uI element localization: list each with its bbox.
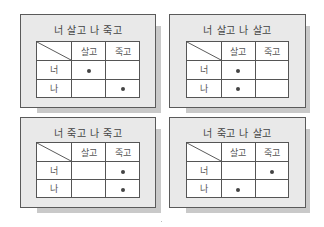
- dot-marker-icon: [236, 69, 240, 73]
- matrix-cell: [72, 61, 106, 80]
- scan-speck: [161, 221, 162, 222]
- matrix-cell: [106, 61, 140, 80]
- dot-marker-icon: [121, 170, 125, 174]
- panel-you-live-i-live: 너 살고 나 살고 살고 죽고 너 나: [169, 14, 306, 108]
- matrix-cell: [222, 180, 256, 198]
- outcome-matrix: 살고 죽고 너 나: [36, 41, 140, 98]
- panel-title: 너 살고 나 살고: [170, 22, 305, 37]
- col-header: 죽고: [106, 42, 140, 61]
- diagonal-line-icon: [37, 42, 71, 60]
- matrix-cell: [106, 162, 140, 180]
- col-header: 살고: [72, 143, 106, 162]
- matrix-cell: [106, 79, 140, 98]
- outcome-matrix: 살고 죽고 너 나: [36, 142, 140, 198]
- row-header: 너: [187, 162, 222, 180]
- row-header: 나: [37, 180, 72, 198]
- matrix-cell: [72, 180, 106, 198]
- panel-title: 너 살고 나 죽고: [21, 22, 155, 37]
- col-header: 죽고: [255, 143, 289, 162]
- outcome-matrix: 살고 죽고 너 나: [186, 41, 289, 98]
- matrix-cell: [106, 180, 140, 198]
- dot-marker-icon: [236, 87, 240, 91]
- matrix-cell: [222, 79, 256, 98]
- matrix-cell: [255, 162, 289, 180]
- panel-you-live-i-die: 너 살고 나 죽고 살고 죽고 너 나: [20, 14, 156, 108]
- matrix-cell: [222, 61, 256, 80]
- corner-cell: [187, 143, 222, 162]
- panel-you-die-i-live: 너 죽고 나 살고 살고 죽고 너 나: [169, 117, 306, 208]
- dot-marker-icon: [87, 69, 91, 73]
- col-header: 살고: [222, 42, 256, 61]
- dot-marker-icon: [121, 188, 125, 192]
- col-header: 죽고: [106, 143, 140, 162]
- corner-cell: [37, 143, 72, 162]
- matrix-cell: [255, 61, 289, 80]
- row-header: 나: [187, 79, 222, 98]
- row-header: 너: [37, 61, 72, 80]
- row-header: 너: [37, 162, 72, 180]
- diagonal-line-icon: [37, 143, 71, 161]
- row-header: 나: [37, 79, 72, 98]
- row-header: 나: [187, 180, 222, 198]
- col-header: 죽고: [255, 42, 289, 61]
- diagonal-line-icon: [187, 143, 221, 161]
- matrix-cell: [222, 162, 256, 180]
- dot-marker-icon: [270, 170, 274, 174]
- corner-cell: [37, 42, 72, 61]
- matrix-cell: [72, 162, 106, 180]
- col-header: 살고: [222, 143, 256, 162]
- row-header: 너: [187, 61, 222, 80]
- dot-marker-icon: [236, 188, 240, 192]
- col-header: 살고: [72, 42, 106, 61]
- outcome-matrix: 살고 죽고 너 나: [186, 142, 289, 198]
- panel-you-die-i-die: 너 죽고 나 죽고 살고 죽고 너 나: [20, 117, 156, 208]
- dot-marker-icon: [121, 87, 125, 91]
- corner-cell: [187, 42, 222, 61]
- panel-title: 너 죽고 나 죽고: [21, 125, 155, 140]
- panel-title: 너 죽고 나 살고: [170, 125, 305, 140]
- matrix-cell: [72, 79, 106, 98]
- matrix-cell: [255, 180, 289, 198]
- matrix-cell: [255, 79, 289, 98]
- diagonal-line-icon: [187, 42, 221, 60]
